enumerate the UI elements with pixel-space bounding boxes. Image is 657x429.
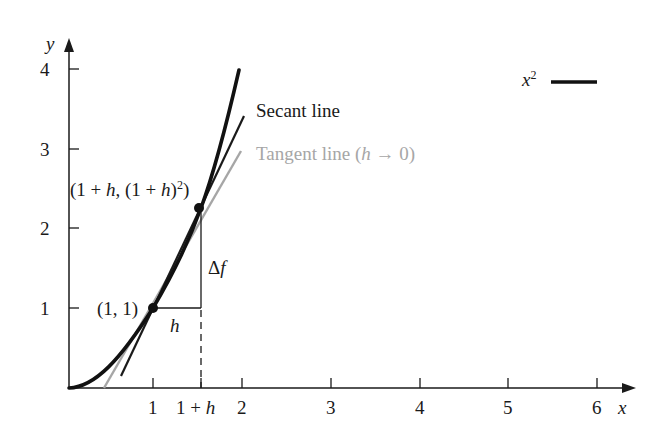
x-tick-label-3: 3 — [326, 398, 336, 417]
point-a-dot — [148, 303, 158, 313]
point-b-dot — [194, 203, 204, 213]
diagram-canvas — [0, 0, 657, 429]
delta-f-label: Δf — [208, 258, 226, 277]
x-tick-label-5: 5 — [503, 398, 513, 417]
point-a-label: (1, 1) — [97, 299, 138, 318]
x-tick-label-1-plus-h: 1 + h — [176, 398, 215, 417]
x-tick-label-4: 4 — [415, 398, 425, 417]
x-tick-label-1: 1 — [148, 398, 158, 417]
x-tick-label-2: 2 — [237, 398, 247, 417]
legend-label: x2 — [522, 70, 536, 89]
x-axis-arrow-icon — [622, 383, 636, 393]
y-axis-label: y — [46, 34, 54, 53]
y-tick-label-1: 1 — [40, 299, 50, 318]
secant-line-label: Secant line — [256, 101, 340, 120]
tangent-line-label: Tangent line (h → 0) — [256, 144, 415, 163]
secant-line — [121, 116, 244, 376]
x-ticks — [153, 378, 597, 388]
y-tick-label-3: 3 — [40, 140, 50, 159]
h-label: h — [170, 316, 180, 335]
y-axis-arrow-icon — [64, 38, 74, 52]
y-tick-label-4: 4 — [40, 60, 50, 79]
x-tick-label-6: 6 — [592, 398, 602, 417]
x-axis-label: x — [618, 398, 626, 417]
parabola-curve — [69, 70, 239, 388]
point-b-label: (1 + h, (1 + h)2) — [70, 180, 189, 199]
y-tick-label-2: 2 — [40, 219, 50, 238]
